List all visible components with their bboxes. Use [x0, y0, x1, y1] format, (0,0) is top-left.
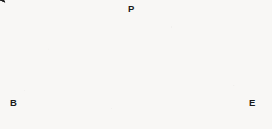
vertex-label-p: P: [128, 4, 135, 14]
diagram-canvas: P B E: [0, 0, 272, 129]
vertex-label-b: B: [10, 98, 17, 108]
triangle-diagram-svg: [0, 0, 272, 129]
vertex-label-e: E: [249, 98, 256, 108]
